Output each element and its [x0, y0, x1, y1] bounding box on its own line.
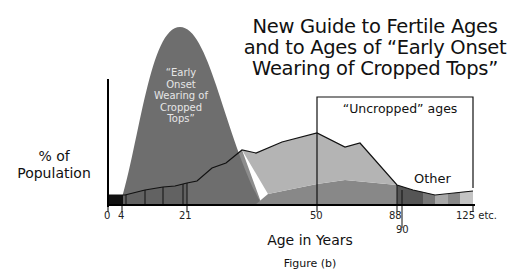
y-label-line-1: % of	[6, 148, 102, 165]
bell-text-3: Wearing of	[136, 90, 226, 102]
bell-text-4: Cropped	[136, 102, 226, 114]
title-line-2: and to Ages of “Early Onset	[230, 37, 513, 58]
bell-text-5: Tops”	[136, 113, 226, 125]
uncropped-label: “Uncropped” ages	[325, 101, 475, 116]
bell-text-2: Onset	[136, 79, 226, 91]
bell-text-1: “Early	[136, 67, 226, 79]
tick-125: 125 etc.	[456, 210, 497, 221]
title-line-1: New Guide to Fertile Ages	[230, 16, 513, 37]
tick-0: 0	[104, 210, 110, 221]
tick-88: 88	[389, 210, 402, 221]
infant-block	[108, 195, 123, 205]
tick-4: 4	[118, 210, 124, 221]
x-axis-label: Age in Years	[180, 232, 440, 248]
other-area-dark	[397, 185, 423, 205]
figure-caption: Figure (b)	[180, 257, 440, 270]
tick-50: 50	[310, 210, 323, 221]
y-axis-label: % of Population	[6, 148, 102, 182]
other-label: Other	[414, 171, 451, 186]
y-label-line-2: Population	[6, 165, 102, 182]
title-line-3: Wearing of Cropped Tops”	[230, 58, 513, 79]
other-area-light1	[435, 194, 448, 205]
bell-annotation: “Early Onset Wearing of Cropped Tops”	[136, 67, 226, 125]
chart-title: New Guide to Fertile Ages and to Ages of…	[230, 16, 513, 79]
other-area-light3	[460, 191, 473, 205]
tick-21: 21	[179, 210, 192, 221]
